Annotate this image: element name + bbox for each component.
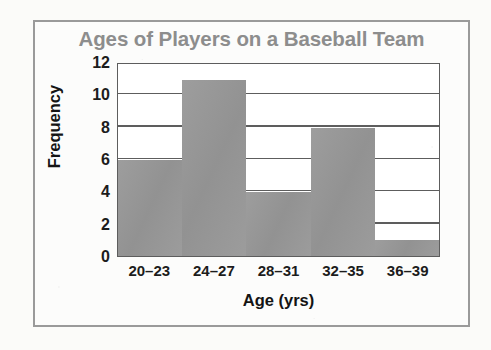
y-axis-tick-labels: 024681012 <box>80 63 110 257</box>
y-tick-label-6: 6 <box>80 152 110 168</box>
y-tick-label-4: 4 <box>80 184 110 200</box>
bar-28-31 <box>246 192 310 256</box>
bar-36-39 <box>375 240 439 256</box>
bar-20-23 <box>118 160 182 256</box>
y-tick-label-8: 8 <box>80 120 110 136</box>
y-axis-title: Frequency <box>45 67 64 187</box>
x-tick-label-28-31: 28–31 <box>246 262 311 279</box>
x-tick-label-36-39: 36–39 <box>375 262 440 279</box>
y-tick-label-0: 0 <box>80 249 110 265</box>
bar-24-27 <box>182 80 246 256</box>
chart-title: Ages of Players on a Baseball Team <box>33 27 470 51</box>
x-tick-label-24-27: 24–27 <box>182 262 247 279</box>
bar-series <box>118 64 439 256</box>
x-axis-tick-labels: 20–2324–2728–3132–3536–39 <box>117 262 440 279</box>
y-tick-label-10: 10 <box>80 87 110 103</box>
plot-area <box>117 63 440 257</box>
y-tick-label-2: 2 <box>80 217 110 233</box>
x-tick-label-20-23: 20–23 <box>117 262 182 279</box>
bar-32-35 <box>311 128 375 256</box>
figure-container: Ages of Players on a Baseball Team Frequ… <box>0 0 491 350</box>
x-axis-title: Age (yrs) <box>117 291 440 310</box>
y-tick-label-12: 12 <box>80 55 110 71</box>
x-tick-label-32-35: 32–35 <box>311 262 376 279</box>
